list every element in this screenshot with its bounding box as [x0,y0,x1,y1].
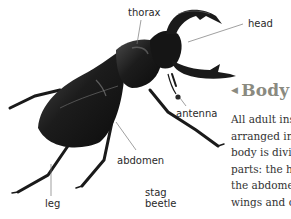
heading-text: Body [241,80,289,100]
caption-line-1: stag [145,187,177,198]
body-line: All adult ins [231,111,291,128]
body-line: body is divid [231,144,291,161]
heading-arrow-icon: ◀ [231,85,238,95]
body-line: parts: the he [231,161,291,178]
body-line: the abdome [231,177,291,194]
label-thorax: thorax [128,7,161,18]
caption-line-2: beetle [145,198,177,209]
label-abdomen: abdomen [117,155,164,166]
section-heading: ◀Body [231,80,289,100]
body-line: wings and c [231,194,291,211]
caption-stag-beetle: stag beetle [145,187,177,209]
label-head: head [248,18,273,29]
label-antenna: antenna [176,108,217,119]
label-leg: leg [45,198,60,209]
body-line: arranged in [231,128,291,145]
mandible-upper [166,10,222,34]
mandible-lower [172,60,236,79]
diagram-page: thorax head antenna abdomen leg stag bee… [0,0,291,219]
abdomen-shape [38,52,126,147]
section-body-text: All adult ins arranged in body is divid … [231,111,291,211]
